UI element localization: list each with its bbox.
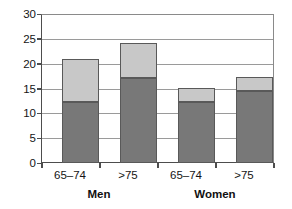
- y-axis-tick-label: 15: [6, 84, 36, 96]
- bar-segment-upper: [120, 43, 157, 78]
- bar-men-65-74: [62, 59, 99, 163]
- bar-men-over-75: [120, 43, 157, 163]
- bar-series-container: [41, 14, 274, 163]
- x-axis-tick-mark: [157, 163, 159, 168]
- x-axis-label-men-65-74: 65–74: [41, 170, 99, 182]
- x-axis-tick-mark: [215, 163, 217, 168]
- x-axis-group-label-men: Men: [41, 189, 157, 201]
- y-axis-tick-label: 0: [6, 158, 36, 170]
- x-axis-group-label-women: Women: [157, 189, 273, 201]
- x-axis-tick-mark: [273, 163, 275, 168]
- bar-women-over-75: [236, 77, 273, 163]
- y-axis-tick-label: 5: [6, 133, 36, 145]
- x-axis-label-women-over-75: >75: [215, 170, 273, 182]
- y-axis-tick-label: 25: [6, 34, 36, 46]
- stacked-bar-chart: 30 25 20 15 10 5 0: [0, 0, 292, 209]
- plot-area: [41, 14, 274, 163]
- bar-segment-lower: [62, 102, 99, 163]
- bar-women-65-74: [178, 88, 215, 163]
- y-axis-tick-label: 10: [6, 108, 36, 120]
- bar-segment-upper: [236, 77, 273, 91]
- bar-segment-lower: [178, 102, 215, 163]
- x-axis-tick-mark: [99, 163, 101, 168]
- x-axis-label-men-over-75: >75: [99, 170, 157, 182]
- y-axis-tick-label: 30: [6, 9, 36, 21]
- y-axis-tick-label: 20: [6, 59, 36, 71]
- bar-segment-lower: [120, 78, 157, 163]
- x-axis-label-women-65-74: 65–74: [157, 170, 215, 182]
- bar-segment-upper: [62, 59, 99, 103]
- bar-segment-lower: [236, 91, 273, 163]
- x-axis-tick-mark: [41, 163, 43, 168]
- bar-segment-upper: [178, 88, 215, 102]
